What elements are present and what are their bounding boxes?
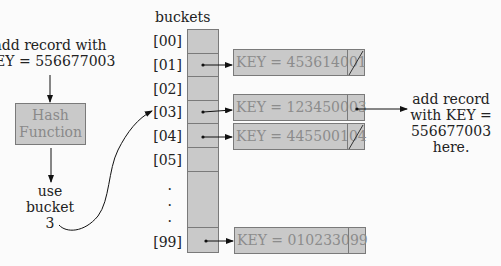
record-node-01: KEY = 453614001	[233, 49, 365, 76]
empty-pointer-cell	[348, 228, 365, 253]
hash-output-line1: use	[20, 183, 80, 199]
next-pointer-cell	[347, 95, 364, 120]
record-node-04: KEY = 445500104	[233, 123, 365, 150]
bucket-index-05: [05]	[142, 152, 182, 168]
bucket-cell-05	[188, 148, 218, 172]
record-node-03: KEY = 123450003	[233, 94, 365, 121]
bucket-index-01: [01]	[142, 57, 182, 73]
bucket-ellipsis-dot: .	[132, 193, 172, 209]
insert-note-line3: 556677003	[408, 123, 494, 139]
insert-note-line1: add record	[408, 91, 494, 107]
bucket-cell-gap	[188, 172, 218, 229]
hash-function-label-line2: Function	[16, 124, 85, 141]
bucket-index-04: [04]	[142, 128, 182, 144]
hash-output-line3: 3	[20, 215, 80, 231]
bucket-array	[187, 29, 219, 253]
bucket-ellipsis-dot: .	[132, 177, 172, 193]
bucket-index-03: [03]	[142, 104, 182, 120]
hash-output-note: use bucket 3	[20, 183, 80, 231]
hash-function-box: Hash Function	[15, 103, 86, 145]
bucket-cell-02	[188, 77, 218, 101]
input-note-line1: add record with	[0, 37, 120, 53]
bucket-ellipsis-dot: .	[132, 209, 172, 225]
bucket-cell-03	[188, 101, 218, 125]
input-note: add record with KEY = 556677003	[0, 37, 120, 69]
insert-note: add record with KEY = 556677003 here.	[408, 91, 494, 155]
hash-function-label-line1: Hash	[16, 107, 85, 124]
bucket-index-99: [99]	[142, 234, 182, 250]
bucket-cell-99	[188, 228, 218, 252]
bucket-index-02: [02]	[142, 81, 182, 97]
bucket-cell-00	[188, 30, 218, 54]
bucket-index-00: [00]	[142, 33, 182, 49]
null-pointer-cell	[347, 124, 364, 149]
buckets-title: buckets	[155, 9, 210, 25]
input-note-line2: KEY = 556677003	[0, 53, 120, 69]
bucket-cell-04	[188, 124, 218, 148]
hash-output-line2: bucket	[20, 199, 80, 215]
bucket-cell-01	[188, 54, 218, 78]
null-pointer-cell	[347, 50, 364, 75]
insert-note-line4: here.	[408, 139, 494, 155]
insert-note-line2: with KEY =	[408, 107, 494, 123]
record-node-99: KEY = 010233099	[234, 227, 366, 254]
